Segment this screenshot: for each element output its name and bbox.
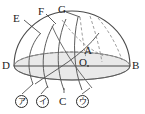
- label-d: D: [2, 60, 10, 71]
- label-g: G: [58, 4, 66, 15]
- marker-circled-u: ウ: [76, 95, 89, 108]
- leader-line-marker-a: [22, 84, 33, 94]
- marker-circled-i: イ: [36, 95, 49, 108]
- leader-line-g: [66, 12, 80, 17]
- marker-circled-u-text: ウ: [79, 98, 87, 106]
- leader-line-f: [46, 14, 56, 24]
- label-b: B: [132, 60, 139, 71]
- center-point-o: [87, 65, 89, 67]
- marker-circled-a-text: ア: [18, 98, 26, 106]
- label-e: E: [13, 13, 20, 24]
- marker-circled-i-text: イ: [39, 98, 47, 106]
- label-a: A: [84, 45, 92, 56]
- label-c: C: [59, 96, 66, 107]
- celestial-hemisphere-figure: E F G A O B D C ア イ ウ: [0, 0, 145, 114]
- label-o: O: [79, 57, 87, 68]
- leader-line-marker-i: [41, 86, 48, 94]
- label-f: F: [38, 6, 44, 17]
- marker-circled-a: ア: [15, 95, 28, 108]
- leader-line-marker-u: [82, 88, 90, 94]
